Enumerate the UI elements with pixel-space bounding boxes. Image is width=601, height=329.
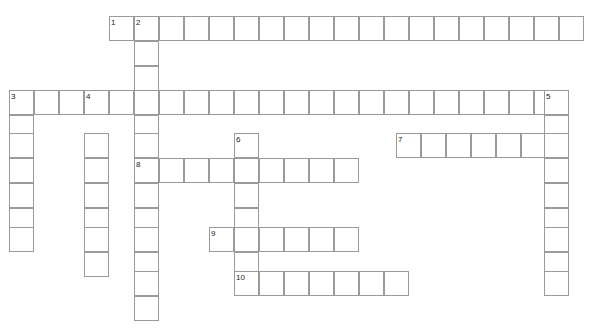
crossword-cell[interactable] xyxy=(334,158,359,183)
crossword-cell[interactable] xyxy=(534,16,559,41)
crossword-cell[interactable] xyxy=(334,227,359,252)
crossword-cell[interactable] xyxy=(409,90,434,115)
clue-number: 7 xyxy=(398,136,402,144)
crossword-cell[interactable] xyxy=(459,90,484,115)
crossword-cell[interactable] xyxy=(409,16,434,41)
crossword-cell[interactable] xyxy=(134,90,159,115)
crossword-cell[interactable] xyxy=(309,227,334,252)
crossword-cell[interactable] xyxy=(544,158,569,183)
crossword-cell[interactable] xyxy=(284,271,309,296)
crossword-cell[interactable] xyxy=(259,16,284,41)
crossword-cell[interactable] xyxy=(134,227,159,252)
crossword-cell[interactable] xyxy=(284,90,309,115)
crossword-cell[interactable] xyxy=(234,16,259,41)
crossword-cell[interactable] xyxy=(134,271,159,296)
crossword-cell[interactable] xyxy=(234,90,259,115)
crossword-cell[interactable] xyxy=(559,16,584,41)
crossword-cell[interactable] xyxy=(84,183,109,208)
crossword-cell[interactable] xyxy=(544,133,569,158)
crossword-cell[interactable] xyxy=(434,16,459,41)
clue-number: 3 xyxy=(11,93,15,101)
crossword-cell[interactable] xyxy=(484,90,509,115)
crossword-cell[interactable] xyxy=(459,16,484,41)
crossword-cell[interactable] xyxy=(309,158,334,183)
crossword-cell[interactable] xyxy=(134,183,159,208)
clue-number: 2 xyxy=(136,19,140,27)
crossword-cell[interactable] xyxy=(159,158,184,183)
crossword-cell[interactable] xyxy=(184,90,209,115)
crossword-cell[interactable] xyxy=(284,16,309,41)
crossword-cell[interactable] xyxy=(84,133,109,158)
crossword-cell[interactable] xyxy=(284,158,309,183)
crossword-cell[interactable] xyxy=(9,227,34,252)
crossword-cell[interactable] xyxy=(359,90,384,115)
crossword-cell[interactable] xyxy=(284,227,309,252)
crossword-cell[interactable] xyxy=(544,271,569,296)
clue-number: 8 xyxy=(136,161,140,169)
crossword-cell[interactable] xyxy=(159,90,184,115)
crossword-cell[interactable] xyxy=(84,227,109,252)
crossword-cell[interactable] xyxy=(521,133,546,158)
crossword-cell[interactable] xyxy=(134,66,159,91)
crossword-cell[interactable] xyxy=(209,16,234,41)
crossword-cell[interactable] xyxy=(509,90,534,115)
crossword-cell[interactable] xyxy=(34,90,59,115)
crossword-cell[interactable] xyxy=(234,183,259,208)
crossword-cell[interactable] xyxy=(446,133,471,158)
crossword-cell[interactable] xyxy=(159,16,184,41)
crossword-cell[interactable] xyxy=(384,16,409,41)
crossword-cell[interactable] xyxy=(234,158,259,183)
crossword-cell[interactable] xyxy=(134,41,159,66)
crossword-cell[interactable] xyxy=(84,252,109,277)
crossword-cell[interactable] xyxy=(496,133,521,158)
clue-number: 5 xyxy=(546,93,550,101)
crossword-cell[interactable] xyxy=(184,16,209,41)
crossword-cell[interactable] xyxy=(259,90,284,115)
crossword-cell[interactable] xyxy=(309,16,334,41)
crossword-cell[interactable] xyxy=(309,90,334,115)
crossword-cell[interactable] xyxy=(384,271,409,296)
crossword-grid[interactable]: 12345678910 xyxy=(0,0,601,329)
clue-number: 6 xyxy=(236,136,240,144)
crossword-cell[interactable] xyxy=(234,227,259,252)
crossword-cell[interactable] xyxy=(544,183,569,208)
crossword-cell[interactable] xyxy=(334,16,359,41)
crossword-cell[interactable] xyxy=(309,271,334,296)
crossword-cell[interactable] xyxy=(84,158,109,183)
crossword-cell[interactable] xyxy=(421,133,446,158)
crossword-cell[interactable] xyxy=(109,90,134,115)
crossword-cell[interactable] xyxy=(384,90,409,115)
crossword-puzzle: 12345678910 xyxy=(0,0,601,329)
crossword-cell[interactable] xyxy=(509,16,534,41)
crossword-cell[interactable] xyxy=(259,271,284,296)
crossword-cell[interactable] xyxy=(259,227,284,252)
crossword-cell[interactable] xyxy=(209,90,234,115)
crossword-cell[interactable] xyxy=(359,271,384,296)
crossword-cell[interactable] xyxy=(9,158,34,183)
crossword-cell[interactable] xyxy=(184,158,209,183)
clue-number: 10 xyxy=(236,274,245,282)
crossword-cell[interactable] xyxy=(134,133,159,158)
clue-number: 4 xyxy=(86,93,90,101)
crossword-cell[interactable] xyxy=(59,90,84,115)
clue-number: 1 xyxy=(111,19,115,27)
crossword-cell[interactable] xyxy=(544,227,569,252)
crossword-cell[interactable] xyxy=(359,16,384,41)
crossword-cell[interactable] xyxy=(9,133,34,158)
crossword-cell[interactable] xyxy=(134,296,159,321)
crossword-cell[interactable] xyxy=(259,158,284,183)
crossword-cell[interactable] xyxy=(334,90,359,115)
crossword-cell[interactable] xyxy=(334,271,359,296)
crossword-cell[interactable] xyxy=(471,133,496,158)
crossword-cell[interactable] xyxy=(209,158,234,183)
crossword-cell[interactable] xyxy=(484,16,509,41)
clue-number: 9 xyxy=(211,230,215,238)
crossword-cell[interactable] xyxy=(434,90,459,115)
crossword-cell[interactable] xyxy=(9,183,34,208)
